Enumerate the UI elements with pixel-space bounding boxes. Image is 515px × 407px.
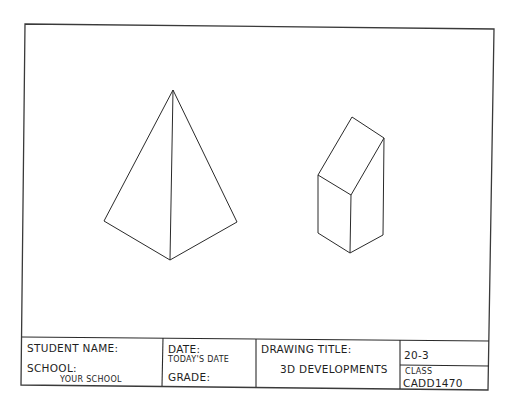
- school-value: YOUR SCHOOL: [60, 376, 122, 384]
- prism-top-front-left: [318, 175, 351, 195]
- date-value: TODAY'S DATE: [168, 356, 229, 364]
- prism-top-back-right: [352, 117, 384, 138]
- class-label: CLASS: [405, 368, 432, 376]
- title-block-number-divider: [400, 365, 489, 366]
- pyramid-base-left: [104, 221, 170, 260]
- drawing-title-label: DRAWING TITLE:: [261, 344, 352, 355]
- pyramid-drawing: [104, 90, 237, 260]
- pyramid-edge-right: [173, 90, 237, 222]
- class-value: CADD1470: [403, 378, 463, 389]
- pyramid-edge-center: [170, 90, 173, 260]
- grade-label: GRADE:: [168, 372, 210, 383]
- prism-base-left: [318, 233, 350, 253]
- prism-drawing: [318, 117, 384, 253]
- date-label: DATE:: [168, 344, 200, 355]
- student-name-label: STUDENT NAME:: [27, 343, 118, 354]
- pyramid-base-right: [170, 222, 237, 260]
- drawing-title-value: 3D DEVELOPMENTS: [280, 364, 388, 375]
- school-label: SCHOOL:: [27, 363, 77, 374]
- drawing-number: 20-3: [404, 350, 429, 361]
- prism-edge-right: [383, 138, 384, 235]
- prism-edge-front: [350, 195, 351, 253]
- prism-base-right: [350, 235, 383, 253]
- title-block-divider-1: [162, 338, 163, 386]
- prism-top-back-left: [318, 117, 352, 175]
- sheet-border: [21, 24, 494, 390]
- pyramid-edge-left: [104, 90, 173, 221]
- prism-top-front-right: [351, 138, 384, 195]
